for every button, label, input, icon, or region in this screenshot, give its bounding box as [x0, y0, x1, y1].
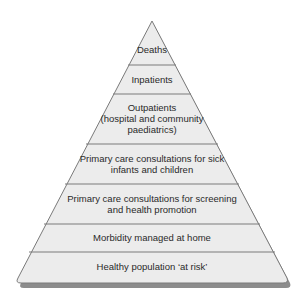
layer-healthy-label: Healthy population ‘at risk’ [0, 261, 304, 272]
layer-inpatients-label: Inpatients [0, 74, 304, 85]
layer-deaths-label: Deaths [0, 44, 304, 55]
layer-morbidity-label: Morbidity managed at home [0, 232, 304, 243]
layer-sick-children-label: Primary care consultations for sick infa… [0, 153, 304, 175]
pyramid-body [17, 21, 288, 283]
layer-outpatients-label: Outpatients (hospital and community paed… [0, 102, 304, 135]
layer-screening-label: Primary care consultations for screening… [0, 193, 304, 215]
